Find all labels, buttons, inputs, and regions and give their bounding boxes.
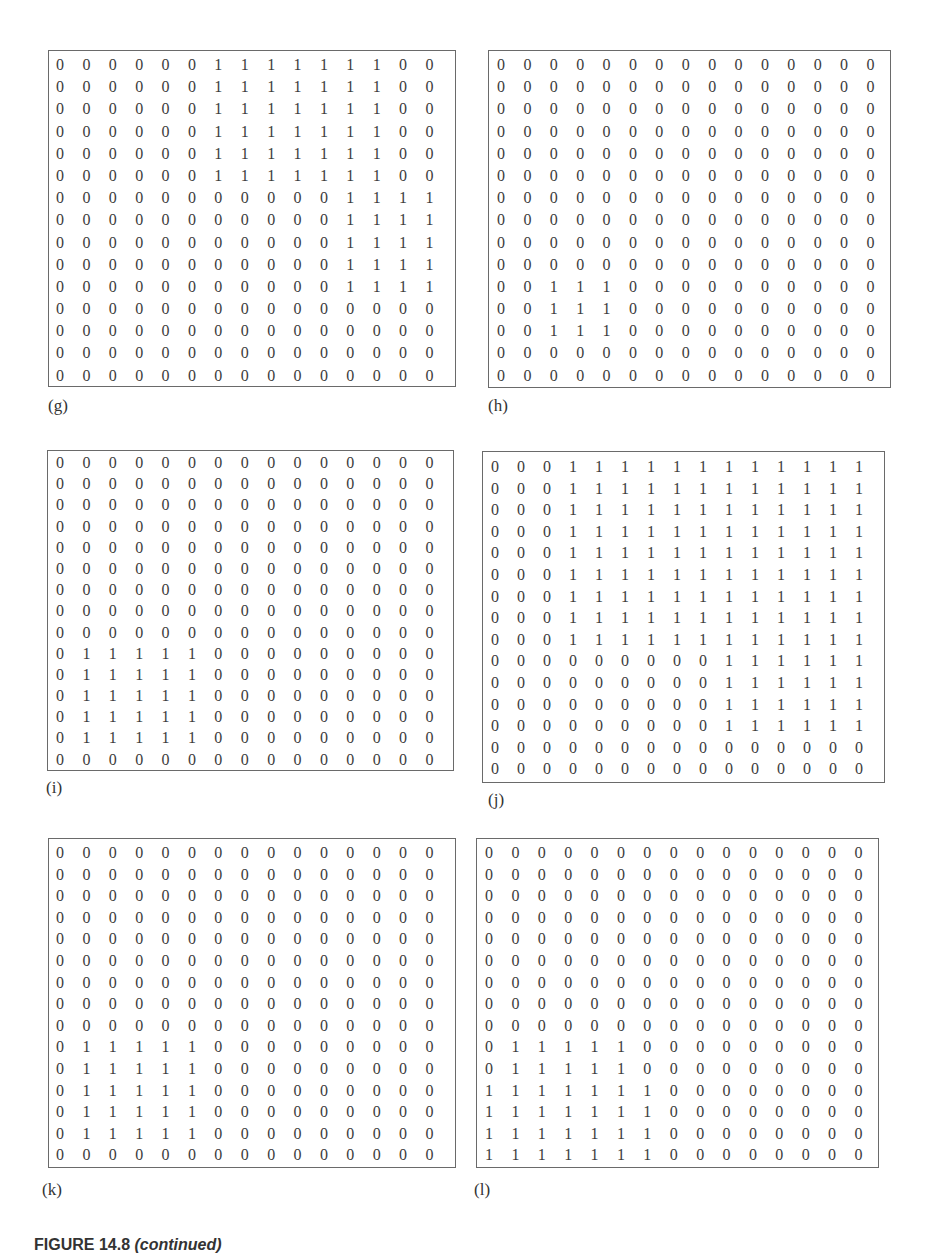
- matrix-cell: 0: [56, 494, 82, 515]
- matrix-cell: 0: [56, 232, 82, 254]
- matrix-cell: 0: [603, 187, 629, 209]
- matrix-cell: 0: [425, 494, 451, 515]
- matrix-cell: 1: [214, 165, 240, 187]
- matrix-cell: 1: [855, 672, 881, 694]
- matrix-cell: 0: [775, 1123, 801, 1145]
- matrix-cell: 0: [399, 579, 425, 600]
- matrix-cell: 0: [829, 737, 855, 759]
- matrix-cell: 0: [682, 298, 708, 320]
- matrix-cell: 1: [647, 478, 673, 500]
- matrix-cell: 0: [135, 209, 161, 231]
- matrix-cell: 0: [696, 1058, 722, 1080]
- matrix-cell: 1: [595, 629, 621, 651]
- matrix-cell: 0: [595, 694, 621, 716]
- matrix-cell: 0: [399, 516, 425, 537]
- matrix-cell: 1: [803, 542, 829, 564]
- matrix-cell: 0: [162, 622, 188, 643]
- matrix-cell: 0: [749, 1080, 775, 1102]
- matrix-cell: 1: [294, 121, 320, 143]
- matrix-cell: 0: [346, 537, 372, 558]
- matrix-cell: 0: [373, 558, 399, 579]
- matrix-cell: 0: [188, 537, 214, 558]
- matrix-cell: 0: [425, 537, 451, 558]
- matrix-cell: 0: [399, 98, 425, 120]
- matrix-cell: 0: [699, 758, 725, 780]
- matrix-cell: 0: [670, 1015, 696, 1037]
- matrix-cell: 0: [854, 950, 880, 972]
- matrix-cell: 0: [673, 694, 699, 716]
- matrix-cell: 0: [497, 298, 523, 320]
- matrix-cell: 1: [777, 715, 803, 737]
- matrix-cell: 1: [617, 1144, 643, 1166]
- matrix-cell: 0: [320, 600, 346, 621]
- matrix-cell: 0: [723, 1036, 749, 1058]
- matrix-cell: 0: [135, 842, 161, 864]
- matrix-cell: 0: [564, 1015, 590, 1037]
- matrix-cell: 0: [162, 76, 188, 98]
- matrix-cell: 0: [320, 452, 346, 473]
- matrix-cell: 0: [214, 1080, 240, 1102]
- matrix-cell: 0: [517, 737, 543, 759]
- matrix-cell: 1: [511, 1123, 537, 1145]
- matrix-cell: 1: [373, 121, 399, 143]
- matrix-cell: 0: [56, 706, 82, 727]
- matrix-cell: 0: [670, 972, 696, 994]
- matrix-cell: 0: [802, 950, 828, 972]
- matrix-cell: 0: [814, 298, 840, 320]
- matrix-cell: 0: [82, 993, 108, 1015]
- matrix-cell: 1: [188, 1101, 214, 1123]
- matrix-cell: 0: [162, 452, 188, 473]
- matrix-cell: 0: [214, 928, 240, 950]
- matrix-cell: 0: [162, 365, 188, 387]
- matrix-cell: 0: [188, 749, 214, 770]
- matrix-cell: 0: [214, 727, 240, 748]
- matrix-cell: 0: [550, 232, 576, 254]
- matrix-cell: 0: [787, 276, 813, 298]
- matrix-cell: 0: [241, 749, 267, 770]
- matrix-cell: 0: [761, 76, 787, 98]
- matrix-cell: 0: [320, 727, 346, 748]
- matrix-cell: 0: [373, 1101, 399, 1123]
- matrix-cell: 1: [485, 1101, 511, 1123]
- matrix-cell: 0: [162, 98, 188, 120]
- matrix-cell: 1: [162, 685, 188, 706]
- matrix-cell: 0: [517, 672, 543, 694]
- matrix-cell: 0: [294, 320, 320, 342]
- matrix-cell: 0: [214, 972, 240, 994]
- matrix-cell: 1: [267, 76, 293, 98]
- matrix-cell: 0: [723, 907, 749, 929]
- matrix-cell: 1: [346, 276, 372, 298]
- matrix-cell: 1: [621, 564, 647, 586]
- matrix-cell: 1: [346, 143, 372, 165]
- matrix-cell: 0: [576, 342, 602, 364]
- matrix-cell: 0: [603, 165, 629, 187]
- matrix-cell: 1: [647, 499, 673, 521]
- matrix-cell: 0: [241, 276, 267, 298]
- matrix-cell: 1: [564, 1101, 590, 1123]
- matrix-cell: 0: [320, 643, 346, 664]
- matrix-cell: 1: [564, 1036, 590, 1058]
- matrix-cell: 0: [629, 209, 655, 231]
- matrix-cell: 1: [595, 542, 621, 564]
- matrix-cell: 0: [699, 650, 725, 672]
- matrix-cell: 0: [399, 1144, 425, 1166]
- matrix-cell: 0: [814, 143, 840, 165]
- matrix-cell: 0: [135, 121, 161, 143]
- matrix-cell: 0: [294, 579, 320, 600]
- matrix-cell: 0: [621, 694, 647, 716]
- matrix-cell: 1: [595, 564, 621, 586]
- matrix-cell: 0: [854, 1015, 880, 1037]
- matrix-cell: 0: [425, 365, 451, 387]
- matrix-cell: 0: [538, 885, 564, 907]
- matrix-cell: 0: [82, 537, 108, 558]
- matrix-cell: 1: [576, 298, 602, 320]
- matrix-cell: 0: [787, 98, 813, 120]
- matrix-cell: 0: [135, 254, 161, 276]
- matrix-cell: 0: [696, 972, 722, 994]
- matrix-cell: 0: [162, 143, 188, 165]
- matrix-cell: 0: [425, 579, 451, 600]
- matrix-cell: 0: [56, 143, 82, 165]
- matrix-cell: 0: [643, 928, 669, 950]
- matrix-cell: 0: [346, 972, 372, 994]
- matrix-cell: 1: [346, 76, 372, 98]
